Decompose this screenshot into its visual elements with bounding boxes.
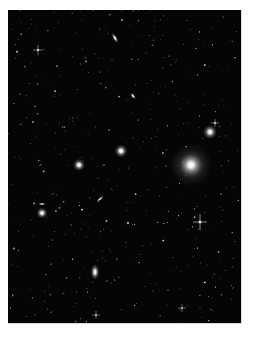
field-star	[133, 10, 134, 11]
field-star	[44, 291, 45, 292]
field-star	[204, 212, 205, 213]
field-star	[162, 240, 164, 242]
field-star	[138, 10, 139, 11]
field-star	[187, 123, 188, 124]
field-star	[44, 301, 45, 302]
field-star	[70, 224, 71, 225]
field-star	[97, 260, 98, 261]
field-star	[118, 96, 120, 98]
field-star	[135, 193, 137, 195]
field-star	[13, 248, 15, 250]
field-star	[219, 136, 220, 137]
field-star	[116, 259, 117, 260]
field-star	[121, 309, 122, 310]
field-star	[176, 101, 177, 102]
field-star	[229, 106, 230, 107]
field-star	[11, 264, 12, 265]
field-star	[219, 207, 220, 208]
field-star	[197, 74, 198, 75]
field-star	[208, 296, 209, 297]
star-mid	[126, 221, 130, 225]
field-star	[140, 254, 141, 255]
field-star	[35, 315, 36, 316]
field-star	[16, 51, 18, 53]
field-star	[153, 92, 154, 93]
field-star	[126, 100, 127, 101]
field-star	[50, 294, 51, 295]
field-star	[8, 133, 9, 134]
field-star	[211, 297, 212, 298]
field-star	[95, 54, 96, 55]
field-star	[231, 285, 232, 286]
field-star	[85, 60, 87, 62]
field-star	[138, 59, 139, 60]
field-star	[128, 202, 129, 203]
field-star	[234, 241, 235, 242]
field-star	[151, 138, 152, 139]
field-star	[100, 231, 101, 232]
bright-star-right	[193, 214, 207, 230]
field-star	[37, 83, 38, 84]
field-star	[59, 123, 60, 124]
field-star	[72, 121, 73, 122]
field-star	[105, 29, 106, 30]
field-star	[139, 196, 140, 197]
field-star	[175, 95, 176, 96]
field-star	[217, 64, 218, 65]
field-star	[231, 40, 232, 41]
field-star	[77, 89, 78, 90]
field-star	[219, 278, 220, 279]
field-star	[179, 197, 180, 198]
field-star	[89, 113, 90, 114]
field-star	[80, 64, 81, 65]
field-star	[108, 33, 109, 34]
field-star	[33, 236, 34, 237]
field-star	[32, 297, 33, 298]
field-star	[51, 312, 52, 313]
field-star	[20, 159, 21, 160]
field-star	[64, 149, 65, 150]
field-star	[132, 202, 133, 203]
field-star	[223, 17, 224, 18]
field-star	[40, 160, 41, 161]
field-star	[63, 201, 64, 202]
field-star	[31, 24, 32, 25]
field-star	[102, 165, 103, 166]
field-star	[34, 106, 35, 107]
field-star	[160, 19, 161, 20]
field-star	[62, 71, 63, 72]
field-star	[73, 306, 74, 307]
field-star	[62, 126, 63, 127]
field-star	[138, 119, 139, 120]
field-star	[49, 286, 50, 287]
lower-left-elliptical-galaxy	[37, 208, 48, 219]
field-star	[162, 68, 163, 69]
field-star	[82, 157, 83, 158]
field-star	[67, 215, 68, 216]
field-star	[231, 299, 232, 300]
field-star	[167, 305, 168, 306]
field-star	[148, 189, 149, 190]
field-star	[53, 193, 54, 194]
field-star	[63, 293, 64, 294]
field-star	[197, 206, 198, 207]
field-star	[128, 99, 129, 100]
field-star	[223, 16, 224, 17]
field-star	[135, 85, 136, 86]
field-star	[26, 95, 27, 96]
field-star	[92, 252, 93, 253]
field-star	[165, 155, 166, 156]
field-star	[180, 309, 181, 310]
field-star	[162, 152, 164, 154]
field-star	[102, 58, 103, 59]
field-star	[88, 228, 89, 229]
field-star	[140, 147, 141, 148]
field-star	[142, 246, 143, 247]
field-star	[187, 306, 188, 307]
field-star	[64, 127, 65, 128]
field-star	[178, 135, 179, 136]
field-star	[199, 39, 200, 40]
field-star	[190, 72, 191, 73]
field-star	[17, 266, 18, 267]
field-star	[218, 251, 220, 253]
